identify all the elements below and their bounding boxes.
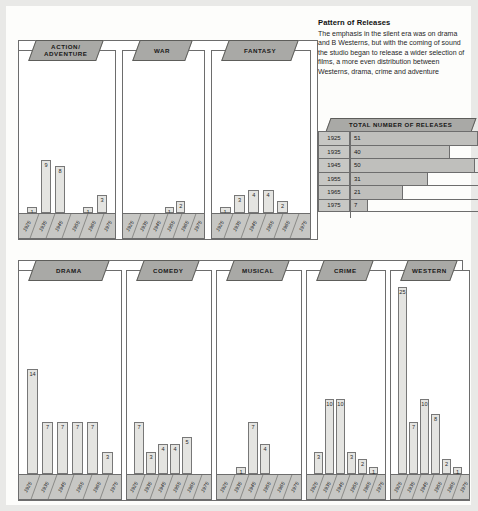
axis-tick-label: 1965 (91, 481, 102, 494)
axis-tick-label: 1975 (289, 481, 300, 494)
bar-value-label: 3 (238, 197, 241, 203)
panel-title: ACTION/ ADVENTURE (44, 43, 87, 58)
axis-tick-label: 1975 (374, 481, 385, 494)
axis-tick-label: 1955 (70, 220, 81, 233)
axis-tick-label: 1965 (179, 220, 190, 233)
bar: 3 (347, 452, 356, 474)
panel-body: 73445192519351945195519651975 (126, 270, 212, 501)
axis-tick-label: 1965 (275, 481, 286, 494)
bar-series: 25710821 (397, 287, 463, 474)
bar-cell: 10 (419, 287, 430, 474)
axis-tick-label: 1945 (56, 481, 67, 494)
bar-value-label: 7 (137, 424, 140, 430)
row-value: 21 (354, 186, 361, 199)
table-row: 192551 (318, 131, 478, 145)
bar: 7 (248, 422, 257, 474)
axis-tick-label: 1925 (392, 481, 403, 494)
bar-value-label: 25 (399, 289, 405, 295)
axis-tick-label: 1965 (445, 481, 456, 494)
bar: 3 (97, 195, 108, 213)
bar: 9 (41, 160, 52, 213)
row-bar (350, 200, 368, 212)
table-row: 194550 (318, 158, 478, 172)
bar-cell (67, 67, 81, 213)
bar-cell: 1 (81, 67, 95, 213)
row-bar (350, 159, 475, 172)
genre-panel-action-adventure: 19813192519351945195519651975ACTION/ ADV… (18, 40, 116, 240)
axis-tick-label: 1945 (418, 481, 429, 494)
bar-cell: 1 (368, 287, 379, 474)
bar-value-label: 3 (317, 454, 320, 460)
bar-cell: 3 (100, 287, 115, 474)
bar: 7 (72, 422, 84, 474)
bar-cell: 3 (346, 287, 357, 474)
bar-cell: 10 (324, 287, 335, 474)
total-releases-title: TOTAL NUMBER OF RELEASES (349, 122, 452, 128)
plot-area: 174 (223, 287, 295, 474)
table-row: 195531 (318, 172, 478, 186)
genre-panel-musical: 174192519351945195519651975MUSICAL (216, 260, 302, 501)
year-axis: 192519351945195519651975 (123, 213, 204, 239)
panel-title-tab: COMEDY (136, 260, 200, 281)
row-bar-cell: 51 (350, 131, 478, 145)
bar-cell: 4 (247, 67, 261, 213)
table-row: 196521 (318, 185, 478, 199)
bar-cell (290, 67, 304, 213)
bar-value-label: 8 (58, 168, 61, 174)
axis-tick-label: 1955 (165, 220, 176, 233)
axis-tick-label: 1955 (264, 220, 275, 233)
axis-tick-label: 1935 (37, 220, 48, 233)
bar-cell (152, 67, 164, 213)
bar-series: 31010321 (313, 287, 379, 474)
bar: 4 (170, 444, 179, 474)
bar-cell: 1 (164, 67, 176, 213)
bar-cell: 7 (55, 287, 70, 474)
bar-value-label: 7 (251, 424, 254, 430)
genre-panel-western: 25710821192519351945195519651975WESTERN (390, 260, 470, 501)
year-axis: 192519351945195519651975 (212, 213, 310, 239)
bar-value-label: 10 (421, 401, 427, 407)
year-axis: 192519351945195519651975 (391, 474, 469, 500)
axis-tick-label: 1945 (247, 481, 258, 494)
year-axis: 192519351945195519651975 (19, 213, 115, 239)
bar: 3 (314, 452, 323, 474)
bar-value-label: 2 (281, 203, 284, 209)
bar-value-label: 9 (44, 162, 47, 168)
bar-value-label: 4 (252, 192, 255, 198)
panel-body: 174192519351945195519651975 (216, 270, 302, 501)
plot-area: 25710821 (397, 287, 463, 474)
panel-body: 13442192519351945195519651975 (211, 50, 311, 240)
bar: 8 (55, 166, 66, 213)
bar: 4 (248, 190, 259, 213)
bar-series: 174 (223, 287, 295, 474)
row-bar-cell: 40 (350, 145, 478, 159)
bar: 4 (158, 444, 167, 474)
bar-value-label: 14 (29, 371, 35, 377)
bar-value-label: 10 (326, 401, 332, 407)
bar-cell: 1 (25, 67, 39, 213)
bar-value-label: 10 (337, 401, 343, 407)
plot-area: 73445 (133, 287, 205, 474)
row-year: 1945 (318, 158, 350, 172)
panel-title: COMEDY (153, 267, 183, 274)
table-row: 193540 (318, 145, 478, 159)
year-axis: 192519351945195519651975 (127, 474, 211, 500)
bar: 5 (182, 437, 191, 474)
bar-cell: 4 (259, 287, 271, 474)
pattern-of-releases-note: Pattern of Releases The emphasis in the … (318, 18, 470, 76)
bar: 14 (27, 369, 39, 474)
axis-tick-label: 1935 (405, 481, 416, 494)
axis-tick-label: 1975 (297, 220, 308, 233)
bar: 3 (146, 452, 155, 474)
bar-value-label: 7 (91, 424, 94, 430)
axis-tick-label: 1935 (142, 481, 153, 494)
plot-area: 31010321 (313, 287, 379, 474)
row-year: 1965 (318, 185, 350, 199)
row-value: 31 (354, 173, 361, 186)
axis-tick-label: 1925 (124, 220, 135, 233)
total-releases-title-tab: TOTAL NUMBER OF RELEASES (325, 118, 476, 132)
genre-panel-crime: 31010321192519351945195519651975CRIME (306, 260, 386, 501)
panel-title-tab: DRAMA (28, 260, 110, 281)
bar-cell (223, 287, 235, 474)
bar-value-label: 7 (76, 424, 79, 430)
